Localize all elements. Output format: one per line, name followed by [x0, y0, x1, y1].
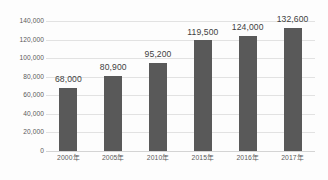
- bar[interactable]: [149, 63, 167, 151]
- x-axis: 2000年 2005年 2010年 2015年 2016年 2017年: [46, 155, 315, 169]
- bar-slot: 124,000: [225, 21, 270, 151]
- bar[interactable]: [284, 28, 302, 151]
- x-axis-tick-label: 2010年: [136, 155, 181, 162]
- y-axis-tick-label: 120,000: [0, 37, 44, 44]
- y-axis-tick-label: 60,000: [0, 92, 44, 99]
- y-axis-tick-label: 140,000: [0, 18, 44, 25]
- bar-value-label: 68,000: [55, 75, 82, 84]
- bar[interactable]: [239, 36, 257, 151]
- bar-chart: 140,000 120,000 100,000 80,000 60,000 40…: [0, 0, 328, 180]
- x-axis-tick-label: 2005年: [91, 155, 136, 162]
- x-axis-tick-label: 2000年: [46, 155, 91, 162]
- bar-value-label: 95,200: [145, 50, 172, 59]
- y-axis-tick-label: 40,000: [0, 111, 44, 118]
- bar-series: 68,000 80,900 95,200 119,500 124,000 132: [46, 21, 315, 151]
- plot-area: 68,000 80,900 95,200 119,500 124,000 132: [46, 21, 315, 151]
- y-axis-tick-label: 0: [0, 148, 44, 155]
- y-axis-tick-label: 20,000: [0, 129, 44, 136]
- bar-slot: 68,000: [46, 21, 91, 151]
- bar-value-label: 132,600: [277, 15, 309, 24]
- bar-slot: 132,600: [270, 21, 315, 151]
- bar-value-label: 80,900: [100, 63, 127, 72]
- bar-value-label: 119,500: [187, 28, 218, 37]
- x-axis-tick-label: 2015年: [180, 155, 225, 162]
- x-axis-tick-label: 2016年: [225, 155, 270, 162]
- x-axis-tick-label: 2017年: [270, 155, 315, 162]
- y-axis-tick-label: 100,000: [0, 55, 44, 62]
- bar-slot: 80,900: [91, 21, 136, 151]
- axis-baseline: [46, 151, 315, 152]
- bar[interactable]: [59, 88, 77, 151]
- bar[interactable]: [194, 40, 212, 151]
- bar[interactable]: [104, 76, 122, 151]
- y-axis-tick-label: 80,000: [0, 74, 44, 81]
- bar-slot: 95,200: [136, 21, 181, 151]
- bar-value-label: 124,000: [232, 23, 264, 32]
- bar-slot: 119,500: [180, 21, 225, 151]
